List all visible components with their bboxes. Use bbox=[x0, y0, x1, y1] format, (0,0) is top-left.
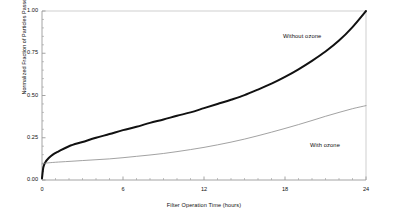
series-annotation-with-ozone: With ozone bbox=[310, 142, 340, 148]
chart-figure: Normalized Fraction of Particles Passed … bbox=[0, 0, 401, 220]
series-annotation-without-ozone: Without ozone bbox=[283, 33, 321, 39]
plot-area bbox=[0, 0, 401, 220]
